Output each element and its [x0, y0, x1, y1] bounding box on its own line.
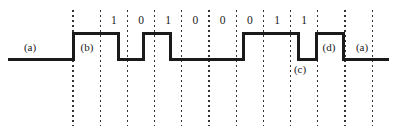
bit-label-7: 1	[301, 15, 307, 27]
bit-label-5: 0	[247, 15, 253, 27]
gridline-group	[73, 10, 372, 126]
bit-label-1: 0	[138, 15, 144, 27]
annotation-a-right: (a)	[356, 42, 368, 53]
annotation-d: (d)	[323, 42, 336, 53]
waveform-figure: 10100011 (a)(b)(c)(d)(a)	[0, 0, 397, 136]
bit-label-4: 0	[220, 15, 226, 27]
annotation-b: (b)	[81, 42, 94, 53]
annotation-c: (c)	[294, 64, 306, 75]
bit-label-2: 1	[165, 15, 171, 27]
bit-label-6: 1	[274, 15, 280, 27]
bit-label-3: 0	[193, 15, 199, 27]
bit-label-0: 1	[111, 15, 117, 27]
annotation-a-left: (a)	[24, 42, 36, 53]
